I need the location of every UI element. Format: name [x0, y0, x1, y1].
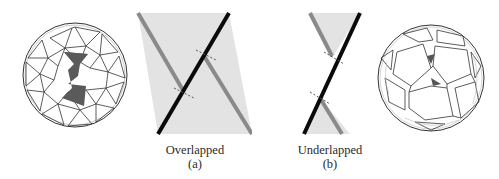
underlapped-diagram	[290, 8, 362, 136]
polygon-tiled-sphere-icon	[375, 22, 487, 134]
caption-a-label: (a)	[150, 157, 240, 171]
left-sphere-figure	[20, 20, 130, 130]
overlapped-diagram	[134, 8, 252, 136]
caption-a: Overlapped (a)	[150, 143, 240, 171]
overlapped-edges-icon	[134, 8, 252, 136]
caption-a-title: Overlapped	[166, 143, 224, 157]
caption-b-title: Underlapped	[298, 143, 363, 157]
underlapped-edges-icon	[290, 8, 362, 136]
triangle-tiled-sphere-icon	[20, 20, 130, 130]
caption-b: Underlapped (b)	[280, 143, 380, 171]
right-sphere-figure	[375, 22, 487, 134]
caption-b-label: (b)	[280, 157, 380, 171]
